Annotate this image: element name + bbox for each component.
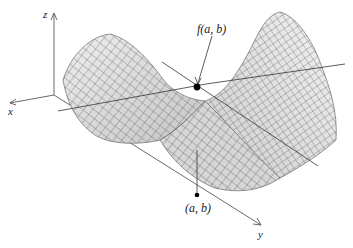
saddle-diagram bbox=[0, 0, 353, 248]
base-point bbox=[195, 193, 200, 198]
surface-point-label: f(a, b) bbox=[197, 23, 226, 35]
x-axis-label: x bbox=[8, 106, 13, 117]
pointer-arrow bbox=[198, 36, 212, 83]
z-axis-label: z bbox=[43, 9, 47, 20]
y-axis-label: y bbox=[258, 229, 263, 240]
plane-point-label: (a, b) bbox=[185, 202, 211, 214]
saddle-point bbox=[194, 84, 201, 91]
saddle-surface bbox=[63, 12, 336, 191]
x-axis bbox=[10, 95, 54, 103]
